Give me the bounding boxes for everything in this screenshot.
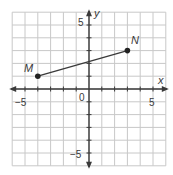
- x-tick-label-neg5: −5: [15, 97, 27, 108]
- x-axis-label: x: [157, 74, 164, 86]
- y-axis-up-arrow-icon: [86, 9, 92, 16]
- point-m: [35, 73, 41, 79]
- y-axis-label: y: [93, 7, 101, 19]
- coordinate-plane: x y 0 −5 5 5 −5 M N: [0, 0, 173, 175]
- x-tick-label-pos5: 5: [149, 97, 155, 108]
- origin-label: 0: [79, 92, 85, 103]
- graph-svg: x y 0 −5 5 5 −5 M N: [0, 0, 173, 175]
- y-tick-label-neg5: −5: [70, 149, 82, 160]
- point-n-label: N: [131, 34, 139, 46]
- y-tick-label-pos5: 5: [78, 17, 84, 28]
- point-m-label: M: [24, 62, 34, 74]
- point-n: [125, 48, 131, 54]
- x-axis-left-arrow-icon: [9, 86, 16, 92]
- axes: [9, 9, 169, 169]
